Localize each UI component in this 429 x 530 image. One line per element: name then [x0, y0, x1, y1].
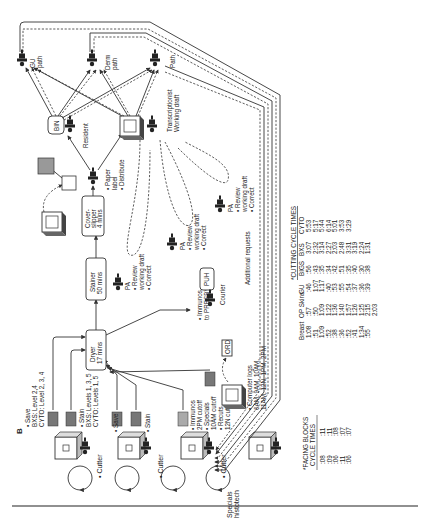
- immunos-presby-1: • Immunos: [196, 290, 203, 320]
- svg-text:10AM cutoff: 10AM cutoff: [210, 396, 217, 430]
- table-cell: :38: [364, 265, 371, 274]
- dryer-box: Dryer 17 mins: [86, 330, 106, 370]
- svg-text:path: path: [36, 55, 44, 68]
- workflow-diagram: B • Cutter • Cutter • Cutter Specialshis…: [0, 0, 429, 530]
- svg-text:• Stain: • Stain: [144, 413, 151, 432]
- svg-text:• Review: • Review: [186, 225, 193, 250]
- tray-icon: [62, 176, 76, 190]
- svg-text:• Correct: • Correct: [145, 265, 152, 290]
- svg-text:2PM cutoff: 2PM cutoff: [196, 400, 203, 430]
- cutter-label-2: • Cutter: [157, 454, 164, 478]
- puh-label: PUH: [203, 272, 210, 286]
- svg-text:50 mins: 50 mins: [96, 272, 103, 294]
- svg-text:*CUTTING CYCLE TIMES: *CUTTING CYCLE TIMES: [290, 206, 297, 280]
- svg-text:• Save: • Save: [24, 408, 31, 427]
- column-header: OP Skins: [298, 292, 305, 318]
- courier-label: Courier: [219, 284, 226, 305]
- pa-review-1: PA • Review working draft • Correct: [124, 254, 152, 291]
- panel-label: B: [15, 428, 24, 434]
- table-cell: 1:31: [364, 241, 371, 254]
- stainer-box: Stainer 50 mins: [86, 258, 106, 300]
- computer-icon-left: [42, 212, 66, 236]
- svg-text:Path: Path: [169, 55, 176, 68]
- svg-text:• Stain: • Stain: [78, 408, 85, 427]
- svg-text:PA: PA: [179, 241, 186, 250]
- column-header: GU: [298, 284, 305, 294]
- table-cell: :39: [364, 283, 371, 292]
- svg-text:CYTO: Level 2, 3, 4: CYTO: Level 2, 3, 4: [38, 371, 45, 427]
- table-cell: :06: [345, 455, 352, 464]
- svg-text:BXS: Level 2,4: BXS: Level 2,4: [31, 385, 38, 427]
- svg-text:• Recuts: • Recuts: [217, 406, 224, 430]
- resident-label: Resident: [82, 123, 89, 148]
- facing-blocks-table: *FACING BLOCKS CYCLE TIMES :08:11:09:11:…: [302, 415, 352, 470]
- coverslipper-box: Cover- slipper 4 mins: [82, 196, 104, 236]
- cutter-1-notes: • Save BXS: Level 2,4 CYTO: Level 2, 3, …: [24, 371, 99, 427]
- svg-text:PA: PA: [124, 281, 131, 290]
- cutting-cycle-times-table: *CUTTING CYCLE TIMES BreastOP SkinsGUBIG…: [290, 206, 378, 340]
- svg-text:PA: PA: [227, 203, 234, 212]
- svg-text:*FACING BLOCKS: *FACING BLOCKS: [302, 417, 309, 470]
- pa-review-2: PA • Review working draft • Correct: [179, 214, 207, 251]
- svg-text:• Save: • Save: [112, 413, 119, 432]
- column-header: BXS: [298, 243, 305, 256]
- cutter-stations: [55, 432, 281, 459]
- svg-text:BXS: Levels 1, 3, 5: BXS: Levels 1, 3, 5: [85, 373, 92, 427]
- computer-logs-icon: [222, 385, 246, 409]
- to-presby-arrow: [106, 310, 190, 335]
- pathologists: GU path Derm path Path: [17, 50, 176, 71]
- svg-text:• Correct: • Correct: [200, 225, 207, 250]
- svg-text:GU: GU: [29, 58, 36, 68]
- table-cell: :55: [364, 329, 371, 338]
- paper-label-3: • Distribute: [118, 159, 125, 190]
- svg-text:• Review: • Review: [131, 265, 138, 290]
- cutter-label-1: • Cutter: [96, 454, 103, 478]
- svg-text:path: path: [111, 57, 119, 70]
- svg-text:Derm: Derm: [104, 55, 111, 70]
- grid-tray-icon: [38, 158, 54, 174]
- svg-text:17 mins: 17 mins: [96, 342, 103, 364]
- column-header: BIGS: [298, 261, 305, 276]
- column-header: CYTO: [298, 217, 305, 234]
- svg-text:• Review: • Review: [234, 187, 241, 212]
- column-header: Breast: [298, 322, 305, 340]
- to-dryer-lines: [53, 337, 210, 410]
- svg-text:CYTO: Levels 1, 5: CYTO: Levels 1, 5: [92, 375, 99, 427]
- transcriptionist-label-2: Working draft: [173, 94, 181, 132]
- paper-label-2: label: [111, 177, 118, 190]
- table-cell: :07: [345, 427, 352, 436]
- svg-text:ORD: ORD: [224, 340, 231, 354]
- transcriptionist-computer-icon: [120, 116, 144, 140]
- svg-text:4 mins: 4 mins: [96, 209, 103, 228]
- review-loops: [127, 140, 228, 255]
- svg-text:• Immunos: • Immunos: [189, 400, 196, 430]
- cycle-arrows: [68, 466, 230, 490]
- svg-text:Stainer: Stainer: [89, 272, 96, 292]
- svg-text:• Correct: • Correct: [248, 187, 255, 212]
- svg-text:CYCLE TIMES: CYCLE TIMES: [309, 424, 316, 466]
- pa-review-3: PA • Review working draft • Correct: [227, 176, 255, 213]
- bin-label: BIN: [53, 120, 60, 131]
- table-cell: 3:29: [345, 219, 352, 232]
- table-cell: 2:03: [371, 303, 378, 316]
- additional-requests-label: Additional requests: [244, 231, 252, 285]
- specials-histotech-label: Specialshistotech: [226, 490, 240, 518]
- to-path-arrows: [26, 68, 158, 120]
